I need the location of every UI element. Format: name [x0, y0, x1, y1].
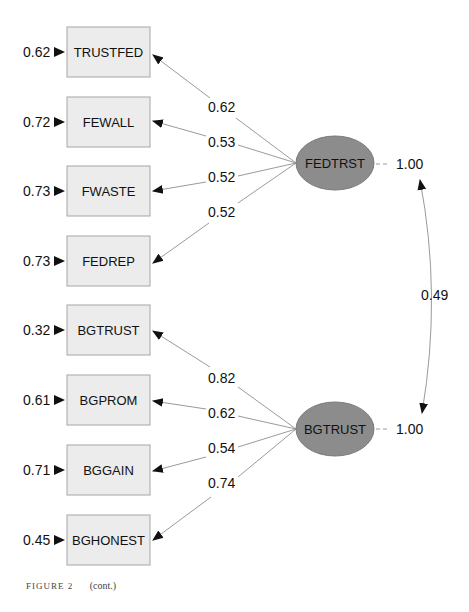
loading-paths-bgtrust [153, 331, 296, 540]
indicator-label: BGPROM [80, 393, 138, 408]
indicator-bghonest: BGHONEST [67, 515, 150, 565]
error-value: 0.73 [23, 183, 50, 199]
indicator-trustfed: TRUSTFED [67, 27, 150, 77]
loading-value: 0.74 [208, 475, 235, 491]
arrow-right-icon [54, 47, 65, 57]
indicator-label: BGHONEST [72, 533, 145, 548]
latent-label: FEDTRST [305, 156, 365, 171]
arrow-right-icon [54, 186, 65, 196]
loading-value: 0.52 [208, 204, 235, 220]
indicator-fedrep: FEDREP [67, 236, 150, 286]
indicator-label: TRUSTFED [74, 45, 143, 60]
loading-value: 0.52 [208, 169, 235, 185]
figure-note: (cont.) [90, 580, 116, 591]
loading-value: 0.82 [208, 370, 235, 386]
error-value: 0.72 [23, 114, 50, 130]
arrow-right-icon [54, 117, 65, 127]
error-value: 0.45 [23, 532, 50, 548]
arrow-right-icon [54, 395, 65, 405]
error-value: 0.62 [23, 44, 50, 60]
variance-value: 1.00 [396, 156, 423, 172]
loading-value: 0.62 [208, 99, 235, 115]
arrow-right-icon [54, 465, 65, 475]
loading-labels: 0.62 0.53 0.52 0.52 0.82 0.62 0.54 0.74 [208, 99, 235, 491]
figure-number: FIGURE 2 [26, 581, 73, 591]
indicator-fewall: FEWALL [67, 97, 150, 147]
error-value: 0.32 [23, 322, 50, 338]
indicator-bgtrust: BGTRUST [67, 305, 150, 355]
indicator-bgprom: BGPROM [67, 375, 150, 425]
indicator-bggain: BGGAIN [67, 445, 150, 495]
correlation-value: 0.49 [421, 287, 448, 303]
indicator-fwaste: FWASTE [67, 166, 150, 216]
arrow-right-icon [54, 535, 65, 545]
indicator-label: FEWALL [83, 115, 135, 130]
indicator-label: FEDREP [82, 254, 135, 269]
factor-correlation: 0.49 [420, 180, 448, 413]
indicator-label: BGGAIN [83, 463, 134, 478]
arrow-right-icon [54, 256, 65, 266]
latent-label: BGTRUST [304, 422, 366, 437]
factor-variances: 1.00 1.00 [376, 156, 423, 437]
error-value: 0.73 [23, 253, 50, 269]
path-diagram: TRUSTFED FEWALL FWASTE FEDREP BGTRUST BG… [0, 0, 469, 612]
loading-value: 0.54 [208, 440, 235, 456]
figure-caption: FIGURE 2 (cont.) [26, 580, 116, 591]
loading-value: 0.53 [208, 134, 235, 150]
variance-value: 1.00 [396, 421, 423, 437]
error-value: 0.71 [23, 462, 50, 478]
indicator-label: FWASTE [82, 184, 136, 199]
latent-fedtrst: FEDTRST [296, 136, 374, 190]
latent-bgtrust: BGTRUST [296, 402, 374, 456]
indicator-label: BGTRUST [77, 323, 139, 338]
error-value: 0.61 [23, 392, 50, 408]
error-terms: 0.62 0.72 0.73 0.73 0.32 0.61 0.71 0.45 [23, 44, 65, 548]
loading-value: 0.62 [208, 405, 235, 421]
arrow-right-icon [54, 325, 65, 335]
loading-paths-fedtrst [153, 55, 296, 263]
